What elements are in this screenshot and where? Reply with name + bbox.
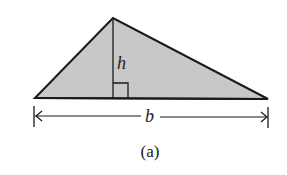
height-label: h — [117, 53, 126, 73]
triangle-base — [35, 98, 268, 99]
triangle-diagram: h b (a) — [0, 0, 287, 175]
base-label: b — [145, 106, 154, 126]
triangle-shape — [35, 18, 268, 99]
figure-caption: (a) — [141, 142, 160, 161]
